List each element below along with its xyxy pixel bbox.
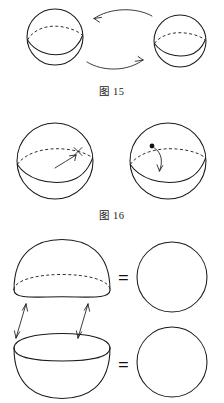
sphere-outline [130, 123, 206, 199]
equals-sign-top: = [118, 268, 129, 287]
arrow-shaft [78, 304, 88, 338]
circle-top-right [137, 242, 207, 312]
figure-17-group [14, 240, 207, 399]
arrow-shaft-up-right [55, 155, 76, 168]
figure-16-sphere-left [17, 123, 93, 199]
rim-front-solid [14, 348, 110, 361]
arrow-shaft [87, 60, 143, 69]
figure-16-sphere-right [130, 123, 206, 199]
rim-back-solid [14, 334, 110, 349]
figure-sheet: 图 15 图 16 = = [0, 0, 224, 403]
equator-front-solid [28, 36, 83, 55]
arrowhead-left [157, 165, 160, 171]
arrowhead-lower [138, 57, 143, 61]
bowl-outline [14, 348, 110, 399]
double-arrow-right [76, 304, 89, 338]
rim-front-solid [14, 290, 110, 297]
circle-bottom-right [137, 327, 207, 397]
arrowhead-top-b [26, 304, 28, 311]
arrowhead-lower [94, 19, 100, 23]
figure-15-caption: 图 15 [0, 83, 224, 98]
figure-16-group [17, 123, 206, 199]
equator-back-dashed [155, 33, 206, 44]
arrow-shaft [16, 304, 26, 338]
figure-15-sphere-right [154, 15, 206, 67]
dome-outline [14, 240, 110, 291]
figure-16-caption: 图 16 [0, 207, 224, 222]
sphere-outline [154, 15, 206, 67]
equator-back-dashed [130, 149, 205, 165]
equator-back-dashed [28, 26, 83, 40]
point-dot-icon [150, 144, 155, 149]
sphere-outline [17, 123, 93, 199]
arrowhead-bottom-b [14, 331, 16, 338]
cross-mark-icon [74, 148, 82, 156]
upper-hemisphere-dome [14, 240, 110, 298]
lower-hemisphere-bowl [14, 334, 110, 399]
sphere-outline [27, 9, 83, 65]
geometry-illustration [0, 0, 224, 403]
equator-back-dashed [17, 149, 92, 165]
figure-15-sphere-left [27, 9, 83, 65]
equator-front-solid [17, 158, 92, 182]
equator-front-solid [130, 158, 205, 182]
arrow-shaft [94, 10, 152, 19]
figure-15-arrow-top-left [94, 10, 152, 22]
figure-15-group [27, 9, 206, 69]
figure-15-arrow-bottom-right [87, 57, 143, 70]
equator-front-solid [155, 40, 206, 56]
double-arrow-left [14, 304, 27, 338]
equals-sign-bottom: = [118, 355, 129, 374]
arrowhead-top-b [88, 304, 90, 311]
rim-back-dashed [14, 275, 110, 291]
